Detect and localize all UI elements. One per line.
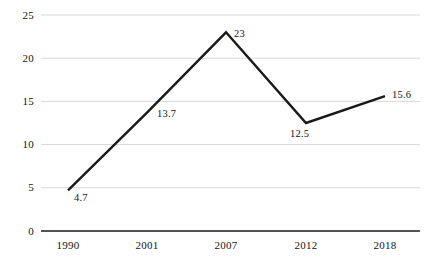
data-label-2001: 13.7 <box>157 108 176 119</box>
line-chart: 25 20 15 10 5 0 1990 2001 2007 2012 2018… <box>0 0 436 266</box>
x-tick-2012: 2012 <box>271 240 341 251</box>
y-tick-15: 15 <box>0 96 34 107</box>
y-tick-25: 25 <box>0 10 34 21</box>
x-tick-1990: 1990 <box>33 240 103 251</box>
data-label-2012: 12.5 <box>290 128 309 139</box>
data-label-2007: 23 <box>234 28 245 39</box>
chart-plot-area <box>0 0 436 266</box>
x-tick-2001: 2001 <box>112 240 182 251</box>
y-tick-0: 0 <box>0 226 34 237</box>
x-tick-2007: 2007 <box>191 240 261 251</box>
data-label-2018: 15.6 <box>392 89 411 100</box>
x-tick-2018: 2018 <box>350 240 420 251</box>
y-tick-10: 10 <box>0 139 34 150</box>
y-tick-5: 5 <box>0 182 34 193</box>
y-tick-20: 20 <box>0 53 34 64</box>
data-label-1990: 4.7 <box>74 192 88 203</box>
data-line-series <box>68 32 385 190</box>
